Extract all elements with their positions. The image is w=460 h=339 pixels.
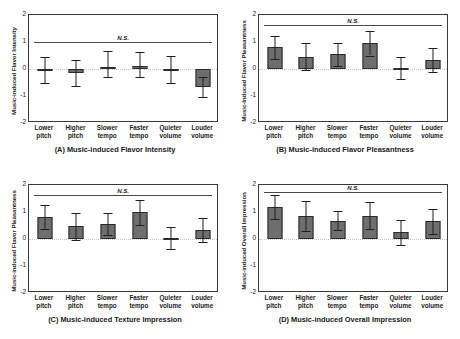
x-tick-label-line: Quieter [155, 294, 187, 302]
x-tick-label-line: pitch [290, 132, 322, 140]
bar-slot [322, 185, 354, 291]
error-bar [306, 43, 307, 69]
x-tick-label-line: Faster [353, 294, 385, 302]
error-cap-bottom [270, 59, 279, 60]
error-cap-top [270, 36, 279, 37]
error-bar [44, 205, 45, 228]
y-tick-label: 1 [252, 208, 256, 215]
y-tick-label: -2 [20, 289, 26, 296]
x-tick-label: Lowerpitch [258, 124, 290, 139]
x-tick-label-line: Quieter [385, 294, 417, 302]
error-cap-bottom [429, 234, 438, 235]
figure-root: Music-induced Flavor Intensity 210-1-2 N… [0, 0, 460, 339]
error-bar [76, 60, 77, 85]
y-axis-ticks: 210-1-2 [14, 184, 26, 292]
x-tick-label: Fastertempo [353, 124, 385, 139]
x-tick-label-line: Slower [91, 294, 123, 302]
x-tick-label: Quietervolume [155, 294, 187, 309]
y-tick-label: 2 [252, 181, 256, 188]
error-cap-top [135, 52, 144, 53]
error-cap-top [302, 201, 311, 202]
panel-caption: (D) Music-induced Overall Impression [230, 315, 460, 325]
error-cap-bottom [365, 229, 374, 230]
x-tick-label-line: volume [186, 302, 218, 310]
y-tick-label: 2 [22, 181, 26, 188]
error-cap-bottom [270, 219, 279, 220]
x-tick-label: Loudervolume [186, 294, 218, 309]
error-cap-top [40, 57, 49, 58]
error-cap-bottom [302, 70, 311, 71]
x-tick-label-line: Faster [353, 124, 385, 132]
error-bar [108, 51, 109, 77]
x-tick-label: Higherpitch [60, 294, 92, 309]
error-cap-bottom [302, 231, 311, 232]
x-tick-label-line: Lower [28, 294, 60, 302]
error-cap-bottom [104, 235, 113, 236]
error-cap-top [334, 43, 343, 44]
bar-slot [354, 185, 386, 291]
panel-b: Music-Induced Flavor Pleasantness 210-1-… [230, 0, 460, 169]
y-tick-label: 0 [252, 65, 256, 72]
error-cap-bottom [40, 83, 49, 84]
x-tick-label-line: tempo [353, 302, 385, 310]
error-bar [401, 220, 402, 245]
x-tick-label: Quietervolume [385, 124, 417, 139]
panel-a: Music-induced Flavor Intensity 210-1-2 N… [0, 0, 230, 169]
x-tick-label-line: pitch [60, 302, 92, 310]
bar-slot [291, 15, 323, 121]
x-axis-labels: LowerpitchHigherpitchSlowertempoFasterte… [258, 294, 448, 314]
error-cap-bottom [104, 77, 113, 78]
x-tick-label: Higherpitch [290, 124, 322, 139]
bar-slot [61, 15, 93, 121]
x-tick-label-line: Higher [60, 124, 92, 132]
x-tick-label: Slowertempo [91, 124, 123, 139]
error-bar [401, 57, 402, 79]
error-bar [171, 227, 172, 249]
error-cap-top [302, 43, 311, 44]
error-cap-bottom [429, 72, 438, 73]
x-tick-label-line: volume [416, 132, 448, 140]
error-cap-top [199, 218, 208, 219]
x-tick-label-line: Higher [290, 124, 322, 132]
bar-slot [386, 185, 418, 291]
x-tick-label: Loudervolume [416, 294, 448, 309]
x-tick-label: Quietervolume [155, 124, 187, 139]
error-bar [203, 77, 204, 98]
error-cap-bottom [135, 225, 144, 226]
x-axis-labels: LowerpitchHigherpitchSlowertempoFasterte… [28, 124, 218, 144]
error-bar [338, 43, 339, 65]
y-tick-label: -1 [250, 262, 256, 269]
x-tick-label-line: pitch [258, 302, 290, 310]
x-tick-label-line: tempo [321, 132, 353, 140]
error-bar [369, 31, 370, 56]
y-tick-label: -2 [250, 289, 256, 296]
bar-slot [417, 185, 449, 291]
plot-area: N.S. [28, 184, 218, 292]
bar-slot [156, 15, 188, 121]
bar-slot [322, 15, 354, 121]
x-tick-label-line: pitch [28, 302, 60, 310]
plot-area: N.S. [258, 14, 448, 122]
error-cap-top [104, 213, 113, 214]
x-tick-label-line: volume [186, 132, 218, 140]
error-cap-bottom [199, 97, 208, 98]
error-cap-top [270, 195, 279, 196]
error-bar [171, 56, 172, 84]
bar-slot [92, 185, 124, 291]
y-tick-label: 0 [22, 65, 26, 72]
error-cap-bottom [40, 229, 49, 230]
x-tick-label-line: tempo [91, 302, 123, 310]
x-tick-label-line: tempo [123, 302, 155, 310]
bar-slot [386, 15, 418, 121]
x-tick-label-line: Faster [123, 124, 155, 132]
x-tick-label: Slowertempo [321, 124, 353, 139]
x-tick-label: Slowertempo [321, 294, 353, 309]
x-tick-label-line: pitch [60, 132, 92, 140]
y-axis-ticks: 210-1-2 [14, 14, 26, 122]
error-bar [338, 211, 339, 231]
x-tick-label: Fastertempo [123, 124, 155, 139]
error-cap-bottom [167, 249, 176, 250]
plot-area: N.S. [28, 14, 218, 122]
x-tick-label-line: Higher [60, 294, 92, 302]
panel-caption: (B) Music-induced Flavor Pleasantness [230, 145, 460, 155]
